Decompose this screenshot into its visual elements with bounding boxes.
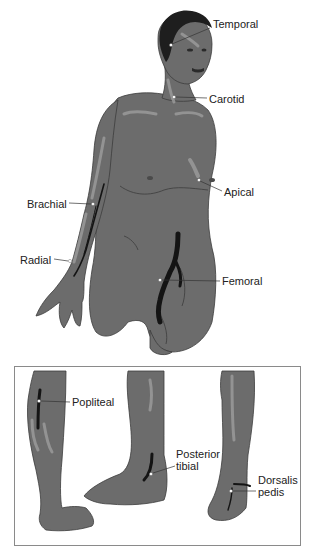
label-femoral: Femoral bbox=[222, 275, 262, 287]
label-radial: Radial bbox=[20, 254, 51, 266]
body-figure bbox=[36, 13, 216, 355]
label-dorsalis-pedis: Dorsalis pedis bbox=[258, 474, 298, 498]
label-apical: Apical bbox=[224, 186, 254, 198]
label-carotid: Carotid bbox=[209, 93, 244, 105]
radial-pulse-dot bbox=[68, 259, 71, 262]
label-popliteal: Popliteal bbox=[72, 396, 114, 408]
lower-leg-inset-frame bbox=[14, 366, 301, 546]
brachial-pulse-dot bbox=[91, 202, 94, 205]
femoral-pulse-dot bbox=[158, 278, 161, 281]
label-temporal: Temporal bbox=[213, 18, 258, 30]
label-brachial: Brachial bbox=[27, 198, 67, 210]
carotid-pulse-dot bbox=[172, 95, 175, 98]
label-posterior-tibial: Posterior tibial bbox=[176, 448, 220, 472]
